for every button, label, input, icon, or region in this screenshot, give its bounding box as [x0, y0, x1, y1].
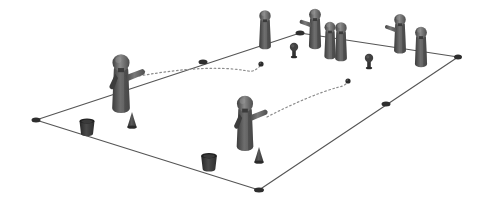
field-diagram-scene — [0, 0, 486, 209]
post-highlight — [366, 55, 369, 58]
edge-marker-far-right — [454, 55, 462, 60]
figure-neck — [263, 19, 267, 22]
figure-queue-6 — [415, 27, 427, 67]
figure-head-highlight — [240, 98, 246, 104]
bucket-inner — [81, 120, 92, 124]
figure-neck — [398, 23, 402, 26]
figure-head-highlight — [326, 24, 330, 28]
cone-base — [127, 125, 136, 128]
figure-head-highlight — [311, 11, 315, 15]
figure-body-shadow — [248, 108, 253, 151]
cone-center-field — [254, 147, 263, 164]
ball-sphere — [345, 78, 350, 83]
buckets-group — [80, 118, 217, 171]
figure-queue-1 — [259, 10, 271, 49]
bucket-inner — [203, 154, 215, 158]
figure-head-highlight — [396, 16, 400, 20]
ball-target-upper — [258, 61, 263, 66]
post-mid-right — [365, 54, 373, 70]
figure-thrower-center — [234, 96, 268, 151]
cone-base — [254, 160, 263, 163]
figure-neck — [242, 109, 248, 113]
trajectory-lower-arc — [267, 82, 348, 117]
figure-neck — [339, 31, 343, 34]
ball-target-lower — [345, 78, 350, 83]
edge-marker-right-edge — [382, 102, 391, 107]
bucket-left — [80, 118, 95, 136]
figure-queue-5 — [385, 14, 406, 54]
figure-body-shadow — [343, 31, 347, 61]
edge-marker-left — [32, 118, 41, 123]
figure-head-highlight — [417, 29, 421, 33]
figure-body-shadow — [267, 19, 271, 49]
figure-body-shadow — [317, 17, 321, 48]
edge-marker-top-right — [296, 31, 305, 36]
figure-arm-right — [249, 109, 267, 121]
edge-marker-top-left — [199, 60, 208, 65]
figure-body-shadow — [402, 23, 406, 54]
figure-head-highlight — [261, 12, 265, 16]
figure-neck — [118, 68, 124, 72]
figure-arm-left — [385, 25, 397, 32]
post-highlight — [291, 44, 294, 47]
figure-arm-left — [300, 20, 312, 27]
ball-sphere — [258, 61, 263, 66]
post-base — [291, 56, 297, 59]
figure-neck — [313, 18, 317, 21]
post-cap — [290, 43, 298, 51]
figure-thrower-left — [109, 54, 145, 113]
figure-body-shadow — [124, 67, 130, 113]
post-cap — [365, 54, 373, 62]
cone-left-field — [127, 112, 136, 129]
figure-neck — [419, 36, 423, 39]
bucket-bottom — [201, 153, 217, 172]
figure-queue-3 — [324, 22, 335, 59]
figure-queue-2 — [300, 9, 321, 49]
figure-head-highlight — [115, 57, 121, 63]
post-base — [366, 67, 372, 70]
edge-marker-bottom — [254, 188, 264, 193]
figure-body-shadow — [423, 35, 427, 66]
ball-highlight — [259, 62, 261, 64]
scene-svg — [0, 0, 486, 209]
figure-arm-right — [126, 69, 145, 81]
figure-body-shadow — [332, 30, 336, 59]
ball-highlight — [346, 79, 348, 81]
figure-queue-4 — [335, 22, 347, 61]
balls-group — [258, 61, 350, 83]
post-top-center — [290, 43, 298, 59]
figure-head-highlight — [337, 24, 341, 28]
figure-neck — [328, 31, 332, 34]
trajectory-upper-arc — [139, 65, 261, 76]
